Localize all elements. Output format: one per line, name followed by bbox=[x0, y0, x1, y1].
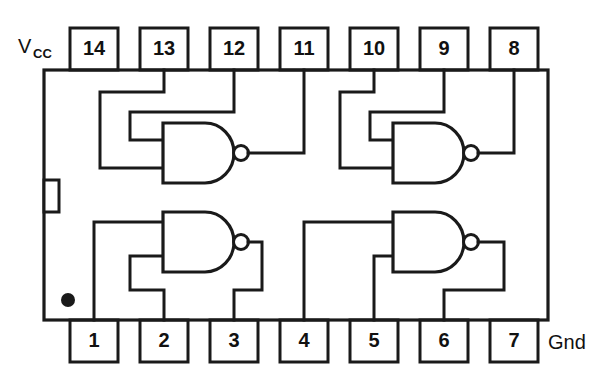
wire-pin5-to-gate4-input-b bbox=[374, 256, 393, 320]
pin-label-14: 14 bbox=[83, 37, 106, 59]
pin-label-6: 6 bbox=[438, 329, 449, 351]
pin-label-11: 11 bbox=[293, 37, 314, 59]
wire-gate3-output-to-pin3 bbox=[234, 242, 262, 320]
nand-gate-3-body bbox=[163, 212, 234, 272]
pin-label-4: 4 bbox=[298, 329, 310, 351]
pin-box-3[interactable]: 3 bbox=[210, 320, 258, 362]
ic-schematic-svg: 14 13 12 11 10 9 bbox=[0, 0, 595, 386]
pin-box-12[interactable]: 12 bbox=[210, 28, 258, 70]
pin-box-9[interactable]: 9 bbox=[420, 28, 468, 70]
bottom-pin-row: 1 2 3 4 5 6 7 bbox=[70, 320, 538, 362]
pin-label-8: 8 bbox=[508, 37, 519, 59]
wire-pin13-to-gate1-input-b bbox=[100, 70, 164, 168]
pin-label-13: 13 bbox=[153, 37, 175, 59]
pin-label-10: 10 bbox=[363, 37, 385, 59]
pin-label-12: 12 bbox=[223, 37, 245, 59]
gate-bottom-right bbox=[304, 212, 504, 320]
pin-label-7: 7 bbox=[508, 329, 519, 351]
pin-box-1[interactable]: 1 bbox=[70, 320, 118, 362]
nand-gate-2-bubble bbox=[464, 146, 479, 161]
vcc-label-subscript: CC bbox=[33, 46, 52, 61]
pin-label-5: 5 bbox=[368, 329, 379, 351]
wire-gate2-output-to-pin8 bbox=[478, 70, 514, 153]
pin-label-3: 3 bbox=[228, 329, 239, 351]
pin-box-7[interactable]: 7 bbox=[490, 320, 538, 362]
pin-box-6[interactable]: 6 bbox=[420, 320, 468, 362]
pin-box-13[interactable]: 13 bbox=[140, 28, 188, 70]
pin-label-9: 9 bbox=[438, 37, 449, 59]
wire-gate1-output-to-pin11 bbox=[248, 70, 304, 153]
pin-label-1: 1 bbox=[88, 329, 99, 351]
gate-top-right bbox=[340, 70, 514, 183]
nand-gate-4-bubble bbox=[464, 235, 479, 250]
ic-pinout-diagram: 14 13 12 11 10 9 bbox=[0, 0, 595, 386]
gate-bottom-left bbox=[94, 212, 262, 320]
pin-box-11[interactable]: 11 bbox=[280, 28, 328, 70]
package-notch bbox=[44, 180, 59, 212]
ic-package-outline bbox=[44, 70, 548, 320]
top-pin-row: 14 13 12 11 10 9 bbox=[70, 28, 538, 70]
nand-gate-2-body bbox=[393, 123, 464, 183]
vcc-label: V CC bbox=[18, 35, 52, 61]
wire-pin2-to-gate3-input-b bbox=[130, 256, 164, 320]
pin-box-14[interactable]: 14 bbox=[70, 28, 118, 70]
wire-pin4-to-gate4-input-a bbox=[304, 222, 393, 320]
vcc-label-main: V bbox=[18, 35, 32, 57]
nand-gate-1-bubble bbox=[234, 146, 249, 161]
pin-box-8[interactable]: 8 bbox=[490, 28, 538, 70]
nand-gate-4-body bbox=[393, 212, 464, 272]
nand-gate-3-bubble bbox=[234, 235, 249, 250]
pin-label-2: 2 bbox=[158, 329, 169, 351]
gate-top-left bbox=[100, 70, 304, 183]
pin1-orientation-dot bbox=[61, 293, 75, 307]
pin-box-10[interactable]: 10 bbox=[350, 28, 398, 70]
gnd-label: Gnd bbox=[548, 331, 586, 353]
pin-box-5[interactable]: 5 bbox=[350, 320, 398, 362]
wire-pin10-to-gate2-input-b bbox=[340, 70, 393, 168]
nand-gate-1-body bbox=[163, 123, 234, 183]
pin-box-2[interactable]: 2 bbox=[140, 320, 188, 362]
pin-box-4[interactable]: 4 bbox=[280, 320, 328, 362]
